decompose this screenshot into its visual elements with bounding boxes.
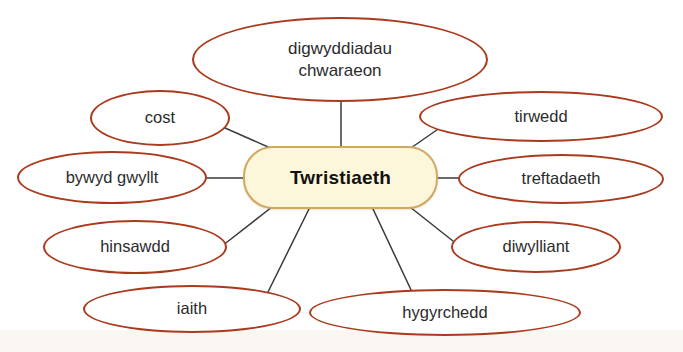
branch-treftadaeth[interactable]: treftadaeth [458, 154, 664, 204]
branch-iaith[interactable]: iaith [83, 285, 301, 333]
branch-label-line1: digwyddiadau [288, 39, 392, 58]
connector-iaith [268, 209, 309, 292]
branch-digwyddiadau-chwaraeon[interactable]: digwyddiadau chwaraeon [192, 17, 488, 102]
connector-hinsawdd [222, 207, 272, 246]
branch-label: hygyrchedd [396, 303, 493, 322]
branch-label: cost [139, 108, 181, 127]
branch-label-line2: chwaraeon [298, 61, 381, 80]
branch-label: bywyd gwyllt [60, 168, 165, 187]
central-node-twristiaeth[interactable]: Twristiaeth [243, 146, 438, 209]
branch-label: iaith [171, 299, 213, 318]
branch-label: treftadaeth [516, 169, 607, 188]
central-node-label: Twristiaeth [284, 167, 397, 189]
connector-hygyrchedd [373, 209, 412, 292]
branch-hygyrchedd[interactable]: hygyrchedd [309, 289, 581, 336]
connector-diwylliant [410, 207, 458, 245]
branch-cost[interactable]: cost [90, 90, 230, 146]
branch-label: diwylliant [497, 237, 576, 256]
diagram-canvas: digwyddiadau chwaraeon cost tirwedd bywy… [0, 0, 683, 352]
branch-diwylliant[interactable]: diwylliant [451, 221, 621, 273]
branch-tirwedd[interactable]: tirwedd [419, 91, 663, 142]
branch-label: tirwedd [508, 107, 573, 126]
branch-hinsawdd[interactable]: hinsawdd [43, 220, 227, 274]
branch-label: hinsawdd [94, 237, 176, 256]
branch-label: digwyddiadau chwaraeon [282, 38, 398, 80]
branch-bywyd-gwyllt[interactable]: bywyd gwyllt [17, 151, 207, 204]
